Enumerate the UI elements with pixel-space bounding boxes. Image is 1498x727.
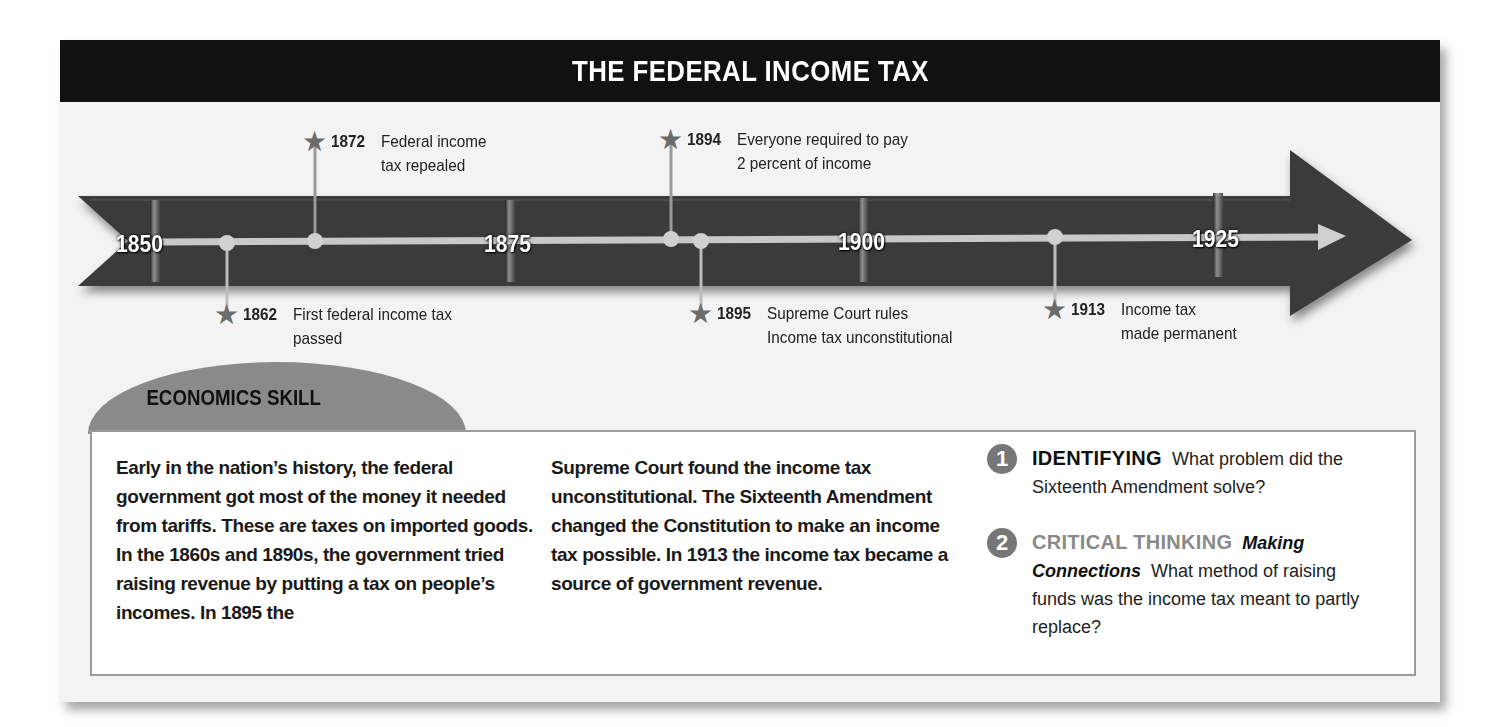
timeline-event-1895: ★ 1895 Supreme Court rules Income tax un… xyxy=(688,302,973,350)
question-number-1-icon: 1 xyxy=(987,444,1017,474)
skill-text-column-2: Supreme Court found the income tax uncon… xyxy=(551,453,961,598)
question-heading: CRITICAL THINKING xyxy=(1032,531,1232,553)
event-year: 1872 xyxy=(331,130,365,154)
event-description: Income tax made permanent xyxy=(1121,298,1237,346)
star-icon: ★ xyxy=(658,128,683,152)
timeline-event-1862: ★ 1862 First federal income tax passed xyxy=(214,303,470,351)
star-icon: ★ xyxy=(1042,298,1067,322)
year-marker-1925: 1925 xyxy=(1192,225,1239,253)
event-year: 1862 xyxy=(243,303,277,327)
economics-skill-heading: ECONOMICS SKILL xyxy=(88,385,380,411)
year-marker-1875: 1875 xyxy=(484,230,531,258)
event-description: Federal income tax repealed xyxy=(381,130,486,178)
question-heading: IDENTIFYING xyxy=(1032,447,1162,469)
timeline-event-1872: ★ 1872 Federal income tax repealed xyxy=(302,130,498,178)
star-icon: ★ xyxy=(688,302,713,326)
event-description: Everyone required to pay 2 percent of in… xyxy=(737,128,908,176)
year-marker-1850: 1850 xyxy=(116,230,163,258)
event-description: Supreme Court rules Income tax unconstit… xyxy=(767,302,952,350)
event-description: First federal income tax passed xyxy=(293,303,452,351)
question-number-2-icon: 2 xyxy=(987,528,1017,558)
event-year: 1894 xyxy=(687,128,721,152)
skill-text-column-1: Early in the nation’s history, the feder… xyxy=(116,453,536,627)
event-year: 1895 xyxy=(717,302,751,326)
star-icon: ★ xyxy=(214,303,239,327)
star-icon: ★ xyxy=(302,130,327,154)
question-2: CRITICAL THINKING Making Connections Wha… xyxy=(1032,528,1362,641)
timeline-event-1913: ★ 1913 Income tax made permanent xyxy=(1042,298,1249,346)
timeline-event-1894: ★ 1894 Everyone required to pay 2 percen… xyxy=(658,128,927,176)
year-marker-1900: 1900 xyxy=(838,228,885,256)
question-1: IDENTIFYING What problem did the Sixteen… xyxy=(1032,444,1402,501)
event-year: 1913 xyxy=(1071,298,1105,322)
